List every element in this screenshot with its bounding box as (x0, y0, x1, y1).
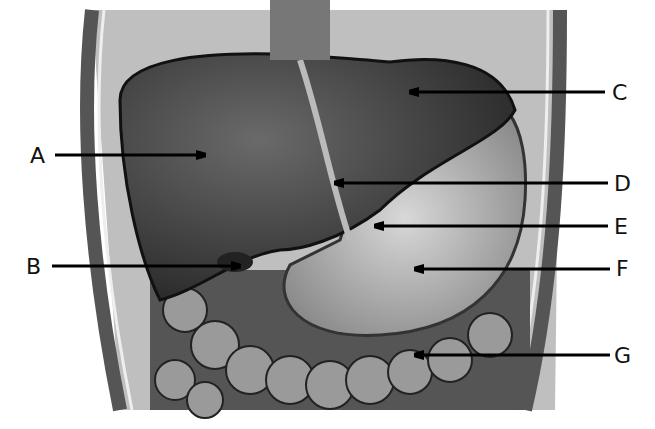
label-d: D (614, 173, 631, 195)
vessels (270, 0, 330, 60)
gallbladder (217, 252, 253, 272)
label-b: B (26, 256, 41, 278)
label-a: A (30, 145, 45, 167)
abdomen-diagram (0, 0, 655, 429)
label-f: F (616, 258, 629, 280)
label-c: C (612, 82, 627, 104)
label-e: E (614, 216, 628, 238)
label-g: G (614, 345, 631, 367)
